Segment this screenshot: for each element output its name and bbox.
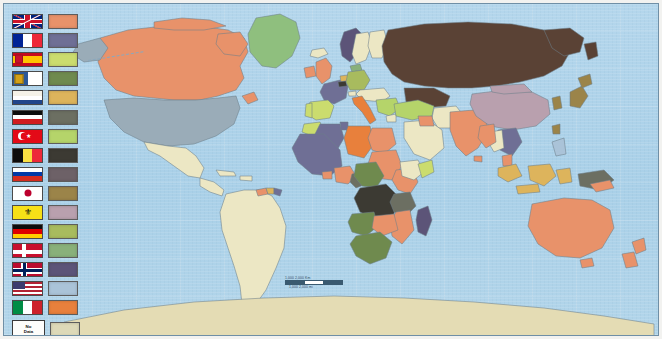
legend-swatch-norway xyxy=(48,262,78,277)
map-legend: ★ xyxy=(12,12,90,330)
legend-swatch-netherlands xyxy=(48,90,78,105)
tasmania xyxy=(580,258,594,268)
legend-row-denmark[interactable] xyxy=(12,241,90,260)
russian-empire xyxy=(382,22,570,88)
legend-row-russia[interactable] xyxy=(12,165,90,184)
legend-swatch-german-empire xyxy=(48,110,78,125)
canada-arctic-islands xyxy=(154,18,226,30)
korea xyxy=(552,96,562,110)
german-empire-flag xyxy=(12,110,43,125)
malaya xyxy=(502,154,512,166)
newfoundland xyxy=(242,92,258,104)
world-map: 1,000 2,000 Km 1,000 2,000 mi xyxy=(3,3,659,336)
legend-swatch-turkey xyxy=(48,129,78,144)
legend-row-turkey[interactable]: ★ xyxy=(12,127,90,146)
legend-row-german-empire[interactable] xyxy=(12,107,90,126)
legend-row-france[interactable] xyxy=(12,31,90,50)
ceylon xyxy=(474,156,482,162)
sumatra xyxy=(498,164,522,182)
legend-swatch-japan xyxy=(48,186,78,201)
legend-swatch-brunei xyxy=(48,205,78,220)
legend-row-germany[interactable] xyxy=(12,222,90,241)
united-states xyxy=(104,96,240,146)
norway-flag xyxy=(12,262,43,277)
usa-flag xyxy=(12,281,43,296)
legend-swatch-united-states xyxy=(48,281,78,296)
legend-row-united-states[interactable] xyxy=(12,279,90,298)
borneo xyxy=(528,164,556,186)
france-flag xyxy=(12,33,43,48)
legend-swatch-malta xyxy=(48,71,78,86)
legend-swatch-denmark xyxy=(48,243,78,258)
iceland xyxy=(310,48,328,58)
legend-swatch-russia xyxy=(48,167,78,182)
legend-row-malta[interactable] xyxy=(12,69,90,88)
russia-flag xyxy=(12,167,43,182)
great-britain xyxy=(316,58,332,84)
legend-row-japan[interactable] xyxy=(12,184,90,203)
turkey-flag: ★ xyxy=(12,129,43,144)
legend-row-belgium[interactable] xyxy=(12,146,90,165)
legend-row-no-data[interactable]: No Data xyxy=(12,318,90,337)
portugal xyxy=(305,103,312,118)
scale-bar-mi-label: 1,000 2,000 mi xyxy=(289,285,343,289)
legend-swatch-belgium xyxy=(48,148,78,163)
celebes xyxy=(556,168,572,184)
denmark-flag xyxy=(12,243,43,258)
central-america xyxy=(200,178,224,196)
ireland xyxy=(304,66,316,78)
germany-flag xyxy=(12,224,43,239)
greenland xyxy=(248,14,300,68)
legend-swatch-united-kingdom xyxy=(48,14,78,29)
madagascar xyxy=(416,206,432,236)
mongolia xyxy=(490,84,532,94)
legend-swatch-spain xyxy=(48,52,78,67)
legend-row-netherlands[interactable] xyxy=(12,88,90,107)
cuba xyxy=(216,170,236,176)
philippines xyxy=(552,138,566,156)
somaliland xyxy=(418,160,434,178)
formosa xyxy=(552,124,560,134)
legend-swatch-no-data xyxy=(50,322,80,336)
scale-bar: 1,000 2,000 Km 1,000 2,000 mi xyxy=(285,276,343,289)
scale-bar-graphic xyxy=(285,280,343,285)
south-africa xyxy=(350,232,392,264)
legend-row-united-kingdom[interactable] xyxy=(12,12,90,31)
screenshot-root: 1,000 2,000 Km 1,000 2,000 mi xyxy=(0,0,662,339)
french-guiana xyxy=(274,188,282,196)
spain-flag xyxy=(12,52,43,67)
australia xyxy=(528,198,614,258)
japan-flag xyxy=(12,186,43,201)
belgium xyxy=(338,81,347,87)
italy-flag xyxy=(12,300,43,315)
hispaniola xyxy=(240,176,252,181)
legend-row-spain[interactable] xyxy=(12,50,90,69)
new-zealand-north xyxy=(632,238,646,254)
mexico xyxy=(144,142,204,178)
gold-coast xyxy=(322,171,332,179)
legend-row-norway[interactable] xyxy=(12,260,90,279)
mesopotamia xyxy=(418,116,434,126)
legend-row-brunei[interactable]: ⚜ xyxy=(12,203,90,222)
legend-swatch-germany xyxy=(48,224,78,239)
legend-swatch-italy xyxy=(48,300,78,315)
south-america xyxy=(220,190,286,312)
no-data-label-line2: Data xyxy=(24,330,34,335)
antarctica xyxy=(64,296,654,336)
no-data-box: No Data xyxy=(12,320,45,337)
belgium-flag xyxy=(12,148,43,163)
legend-swatch-france xyxy=(48,33,78,48)
japan xyxy=(570,86,588,108)
netherlands-flag xyxy=(12,90,43,105)
japan-hokkaido xyxy=(578,74,592,88)
legend-row-italy[interactable] xyxy=(12,298,90,317)
switzerland xyxy=(348,91,356,96)
germany xyxy=(346,70,370,90)
java xyxy=(516,184,540,194)
uk-flag xyxy=(12,14,43,29)
malta-flag xyxy=(12,71,43,86)
new-zealand-south xyxy=(622,252,638,268)
brunei-flag: ⚜ xyxy=(12,205,43,220)
kamchatka xyxy=(584,42,598,60)
